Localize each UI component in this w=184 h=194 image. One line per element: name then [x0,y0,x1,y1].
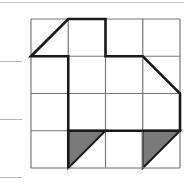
shaded-triangle [68,131,105,168]
grid-figure [0,0,184,194]
shaded-triangle [143,131,180,168]
